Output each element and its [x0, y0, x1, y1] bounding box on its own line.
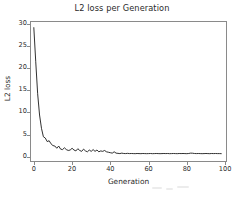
y-tick-text: 0 [14, 153, 27, 160]
y-tick-text: 5 [14, 131, 27, 138]
y-tick-mark [27, 24, 30, 25]
loss-curve [34, 28, 221, 154]
y-tick-mark [27, 112, 30, 113]
y-tick-text: 10 [14, 108, 27, 115]
x-tick-label: 100 [213, 166, 237, 173]
y-tick-mark [27, 46, 30, 47]
x-tick-mark [72, 162, 73, 165]
y-tick-label: 0 [14, 153, 27, 161]
x-tick-mark [225, 162, 226, 165]
plot-svg [30, 21, 227, 162]
y-axis-label: L2 loss [3, 65, 12, 113]
y-tick-label: 20 [14, 64, 27, 72]
chart-title: L2 loss per Generation [0, 3, 244, 13]
x-tick-label: 80 [175, 166, 199, 173]
y-tick-text: 20 [14, 64, 27, 71]
y-tick-label: 25 [14, 42, 27, 50]
y-tick-mark [27, 157, 30, 158]
x-tick-label: 20 [60, 166, 84, 173]
y-tick-label: 5 [14, 131, 27, 139]
y-tick-mark [27, 135, 30, 136]
x-tick-label: 0 [22, 166, 46, 173]
x-tick-mark [110, 162, 111, 165]
y-tick-text: 15 [14, 86, 27, 93]
y-tick-text: 25 [14, 42, 27, 49]
y-axis-label-host: L2 loss [0, 0, 1, 1]
y-tick-label: 30 [14, 20, 27, 28]
y-tick-mark [27, 90, 30, 91]
x-tick-label: 40 [98, 166, 122, 173]
x-tick-mark [187, 162, 188, 165]
x-tick-mark [149, 162, 150, 165]
chart-figure: L2 loss per Generation 051015202530 0204… [0, 0, 244, 199]
scan-artifact [150, 186, 196, 192]
y-tick-label: 10 [14, 108, 27, 116]
x-tick-mark [34, 162, 35, 165]
y-tick-text: 30 [14, 20, 27, 27]
x-axis-label: Generation [30, 177, 227, 186]
x-tick-label: 60 [137, 166, 161, 173]
y-tick-mark [27, 68, 30, 69]
y-tick-label: 15 [14, 86, 27, 94]
